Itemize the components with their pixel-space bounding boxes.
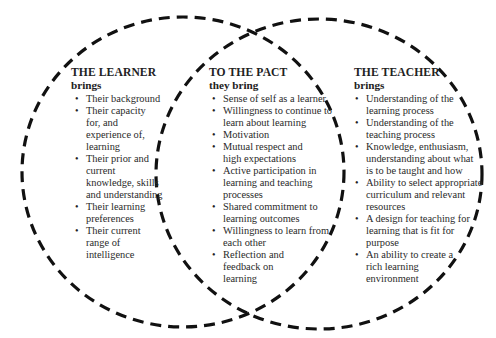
venn-diagram: THE LEARNER brings Their background Thei…	[0, 0, 496, 338]
learner-list: Their background Their capacity for, and…	[73, 93, 161, 261]
list-item: Mutual respect and high expectations	[210, 141, 313, 165]
teacher-list: Understanding of the learning process Un…	[353, 93, 478, 285]
list-item: Understanding of the teaching process	[353, 117, 464, 141]
list-item: Ability to select appropriate curriculum…	[353, 177, 486, 213]
pact-list: Sense of self as a learner Willingness t…	[210, 93, 333, 285]
list-item: Their current range of intelligence	[73, 225, 152, 261]
list-item: Knowledge, enthusiasm, understanding abo…	[353, 141, 478, 177]
pact-title: TO THE PACT	[209, 66, 333, 79]
list-item: Their learning preferences	[73, 201, 158, 225]
list-item: Willingness to continue to learn about l…	[210, 105, 333, 129]
list-item: Reflection and feedback on learning	[210, 249, 295, 285]
learner-section: THE LEARNER brings Their background Thei…	[71, 66, 161, 261]
list-item: Their prior and current knowledge, skill…	[73, 153, 164, 201]
list-item: Their background	[73, 93, 161, 105]
list-item: Sense of self as a learner	[210, 93, 333, 105]
list-item: Their capacity for, and experience of, l…	[73, 105, 148, 153]
pact-subtitle: they bring	[209, 79, 333, 92]
teacher-section: THE TEACHER brings Understanding of the …	[354, 66, 478, 285]
list-item: Shared commitment to learning outcomes	[210, 201, 328, 225]
pact-section: TO THE PACT they bring Sense of self as …	[209, 66, 333, 285]
list-item: Active participation in learning and tea…	[210, 165, 328, 201]
list-item: A design for teaching for learning that …	[353, 213, 478, 249]
list-item: Understanding of the learning process	[353, 93, 464, 117]
teacher-title: THE TEACHER	[354, 66, 478, 79]
teacher-subtitle: brings	[354, 79, 478, 92]
learner-title: THE LEARNER	[71, 66, 161, 79]
learner-subtitle: brings	[71, 79, 161, 92]
list-item: Willingness to learn from each other	[210, 225, 335, 249]
list-item: An ability to create a rich learning env…	[353, 249, 456, 285]
list-item: Motivation	[210, 129, 333, 141]
